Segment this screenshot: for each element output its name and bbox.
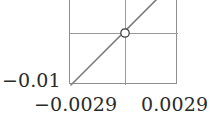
origin-marker-icon — [121, 29, 129, 37]
data-line-diagonal — [71, 0, 183, 85]
x-axis-tick-label-right: 0.0029 — [141, 95, 208, 114]
figure-canvas: −0.01 −0.0029 0.0029 — [0, 0, 210, 118]
plot-svg — [69, 0, 179, 86]
x-axis-tick-label-left: −0.0029 — [34, 95, 117, 114]
y-axis-tick-label-bottom: −0.01 — [2, 71, 61, 90]
plot-panel — [69, 0, 177, 84]
